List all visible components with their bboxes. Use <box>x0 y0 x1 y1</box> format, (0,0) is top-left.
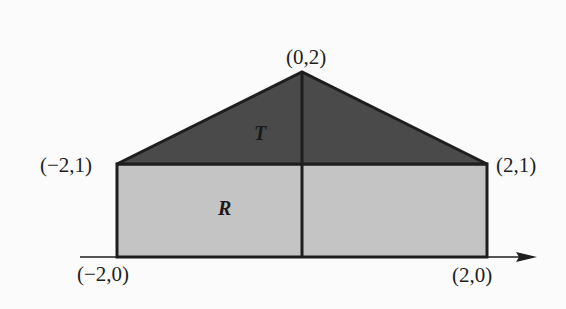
region-diagram: T R (0,2) (−2,1) (2,1) (−2,0) (2,0) <box>0 0 566 309</box>
point-label-top-left: (−2,1) <box>40 153 92 177</box>
point-label-bottom-right: (2,0) <box>452 263 492 287</box>
point-label-apex: (0,2) <box>286 45 326 69</box>
rectangle-label: R <box>217 197 231 219</box>
x-axis-arrow-icon <box>516 252 537 262</box>
triangle-label: T <box>254 122 267 144</box>
point-label-bottom-left: (−2,0) <box>77 262 129 286</box>
point-label-top-right: (2,1) <box>496 153 536 177</box>
